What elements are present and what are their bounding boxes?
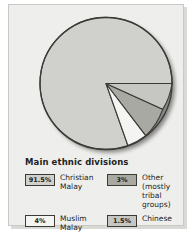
legend-label-line1: Other (mostly <box>142 173 170 191</box>
legend-label-line1: Muslim <box>60 214 87 223</box>
legend-label-chinese: Chinese <box>142 214 172 223</box>
pie-chart-area <box>17 9 193 157</box>
legend-swatch-christian-malay: 91.5% <box>25 174 55 186</box>
legend-label-line2: tribal groups) <box>142 191 171 209</box>
legend-row: 4% Muslim Malay 1.5% Chinese <box>25 214 189 232</box>
legend-swatch-muslim-malay: 4% <box>25 215 55 227</box>
pie-chart-svg <box>17 9 193 157</box>
legend-label-line1: Christian <box>60 173 93 182</box>
legend-item-other[interactable]: 3% Other (mostly tribal groups) <box>107 173 189 209</box>
legend-title: Main ethnic divisions <box>25 157 128 167</box>
chart-panel: Main ethnic divisions 91.5% Christian Ma… <box>8 4 184 226</box>
legend-label-other: Other (mostly tribal groups) <box>142 173 189 209</box>
chart-legend: Main ethnic divisions 91.5% Christian Ma… <box>17 153 193 231</box>
legend-grid: 91.5% Christian Malay 3% Other (mostly t… <box>25 173 189 237</box>
legend-row: 91.5% Christian Malay 3% Other (mostly t… <box>25 173 189 209</box>
legend-swatch-other: 3% <box>107 174 137 186</box>
legend-label-muslim-malay: Muslim Malay <box>60 214 87 232</box>
legend-label-christian-malay: Christian Malay <box>60 173 93 191</box>
legend-label-line1: Chinese <box>142 214 172 223</box>
legend-item-christian-malay[interactable]: 91.5% Christian Malay <box>25 173 107 191</box>
legend-label-line2: Malay <box>60 223 82 232</box>
legend-item-muslim-malay[interactable]: 4% Muslim Malay <box>25 214 107 232</box>
chart-figure: Main ethnic divisions 91.5% Christian Ma… <box>0 0 195 240</box>
legend-swatch-chinese: 1.5% <box>107 215 137 227</box>
legend-label-line2: Malay <box>60 182 82 191</box>
legend-item-chinese[interactable]: 1.5% Chinese <box>107 214 189 227</box>
